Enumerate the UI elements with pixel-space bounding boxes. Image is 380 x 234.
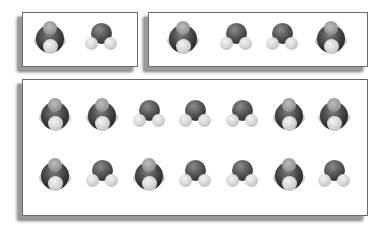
water-molecule-vee-icon: [85, 158, 119, 192]
water-molecule-front-icon: [38, 98, 72, 132]
water-molecule-vee-icon: [84, 21, 118, 55]
water-molecule-vee-icon: [178, 98, 212, 132]
water-molecule-vee-icon: [132, 98, 166, 132]
water-molecule-front-icon: [272, 158, 306, 192]
water-molecule-vee-icon: [317, 158, 351, 192]
water-molecule-vee-icon: [219, 21, 253, 55]
water-molecule-front-icon: [314, 21, 348, 55]
water-molecule-vee-icon: [225, 98, 259, 132]
water-molecule-vee-icon: [265, 21, 299, 55]
water-molecule-front-icon: [85, 98, 119, 132]
water-molecule-vee-icon: [178, 158, 212, 192]
water-molecule-front-icon: [33, 21, 67, 55]
water-molecule-front-icon: [38, 158, 72, 192]
water-molecule-front-icon: [166, 21, 200, 55]
water-molecule-front-icon: [317, 98, 351, 132]
water-molecule-front-icon: [272, 98, 306, 132]
water-molecule-front-icon: [132, 158, 166, 192]
water-molecule-vee-icon: [225, 158, 259, 192]
